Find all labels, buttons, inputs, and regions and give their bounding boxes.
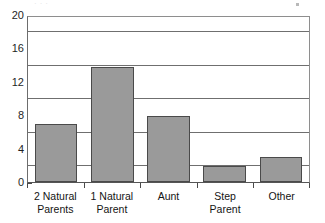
x-label-line-1: 2 Natural xyxy=(27,190,84,203)
y-tick-label-0: 0 xyxy=(2,177,24,188)
x-label-line-2: Parent xyxy=(84,203,141,216)
y-tick-label-4: 4 xyxy=(2,144,24,155)
bar-step-parent xyxy=(203,166,246,183)
bar-slot-aunt xyxy=(140,17,196,182)
x-tick-mark-3 xyxy=(197,183,198,188)
y-tick-label-12: 12 xyxy=(2,77,24,88)
y-tick-label-8: 8 xyxy=(2,110,24,121)
x-label-line-1: Aunt xyxy=(140,190,197,203)
x-label-1-natural-parent: 1 Natural Parent xyxy=(84,190,141,215)
x-label-step-parent: Step Parent xyxy=(197,190,254,215)
plot-area xyxy=(27,16,310,183)
x-tick-mark-1 xyxy=(84,183,85,188)
x-tick-mark-2 xyxy=(140,183,141,188)
x-label-line-1: 1 Natural xyxy=(84,190,141,203)
x-label-2-natural-parents: 2 Natural Parents xyxy=(27,190,84,215)
y-axis: 20 16 12 8 4 0 xyxy=(0,16,24,183)
bar-2-natural-parents xyxy=(35,124,78,182)
x-tick-mark-0 xyxy=(27,183,28,188)
x-label-line-1: Other xyxy=(253,190,310,203)
scan-artifact-dot xyxy=(296,3,299,6)
cut-off-header-text: · · · xyxy=(0,0,325,7)
y-tick-label-16: 16 xyxy=(2,43,24,54)
x-axis-labels: 2 Natural Parents 1 Natural Parent Aunt … xyxy=(27,190,310,215)
bar-slot-other xyxy=(253,17,309,182)
bar-slot-2-natural-parents xyxy=(28,17,84,182)
x-label-line-1: Step xyxy=(197,190,254,203)
bar-slot-1-natural-parent xyxy=(84,17,140,182)
bar-slot-step-parent xyxy=(197,17,253,182)
x-label-line-2: Parent xyxy=(197,203,254,216)
x-label-aunt: Aunt xyxy=(140,190,197,215)
bar-1-natural-parent xyxy=(91,67,134,183)
bar-other xyxy=(260,157,303,182)
bars-layer xyxy=(28,17,309,182)
bar-aunt xyxy=(147,116,190,182)
x-tick-mark-4 xyxy=(253,183,254,188)
y-tick-label-20: 20 xyxy=(2,10,24,21)
x-label-other: Other xyxy=(253,190,310,215)
bar-chart-figure: · · · 20 16 12 8 4 0 xyxy=(0,0,325,223)
x-label-line-2: Parents xyxy=(27,203,84,216)
x-axis-tick-marks xyxy=(27,183,310,188)
x-tick-mark-5 xyxy=(309,183,310,188)
